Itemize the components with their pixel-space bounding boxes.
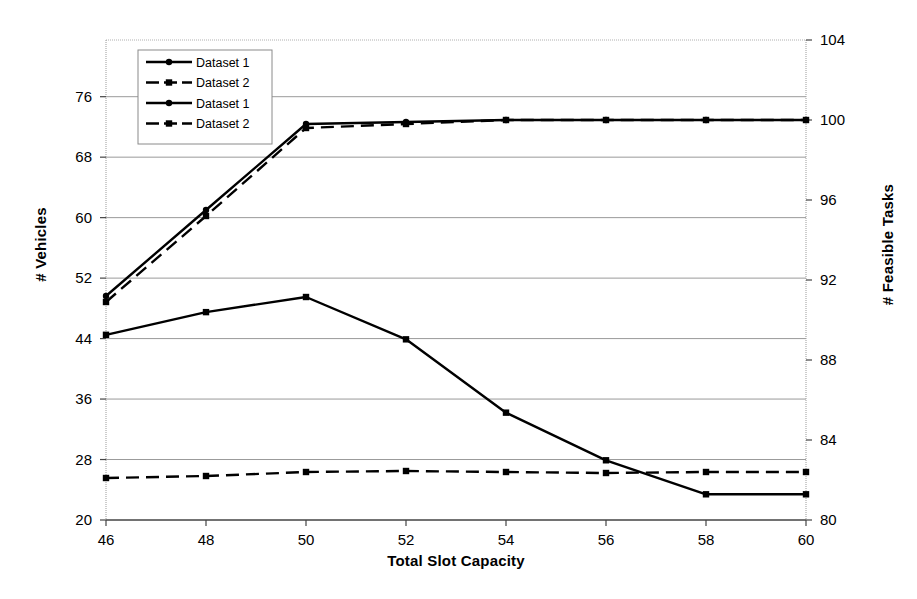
- legend-marker-0: [166, 59, 172, 65]
- chart-container: # Vehicles # Feasible Tasks Total Slot C…: [0, 0, 917, 599]
- series-marker-2: [303, 294, 309, 300]
- data-series: [103, 117, 809, 498]
- legend-marker-2: [166, 100, 172, 106]
- series-marker-3: [503, 469, 509, 475]
- series-line-0: [106, 120, 806, 296]
- series-marker-2: [103, 332, 109, 338]
- chart-legend: Dataset 1Dataset 2Dataset 1Dataset 2: [138, 50, 272, 144]
- series-marker-1: [203, 213, 209, 219]
- series-marker-2: [803, 491, 809, 497]
- series-marker-2: [503, 409, 509, 415]
- series-marker-0: [203, 207, 209, 213]
- series-marker-3: [403, 468, 409, 474]
- series-marker-3: [203, 473, 209, 479]
- series-marker-3: [103, 475, 109, 481]
- series-marker-3: [703, 469, 709, 475]
- series-line-2: [106, 297, 806, 494]
- series-marker-2: [603, 457, 609, 463]
- series-marker-1: [603, 117, 609, 123]
- legend-marker-3: [166, 120, 172, 126]
- legend-label-1: Dataset 2: [196, 76, 250, 90]
- series-marker-3: [603, 470, 609, 476]
- gridlines: [106, 97, 806, 520]
- legend-label-2: Dataset 1: [196, 97, 250, 111]
- series-marker-1: [303, 125, 309, 131]
- series-marker-2: [403, 336, 409, 342]
- series-marker-1: [703, 117, 709, 123]
- series-marker-0: [103, 293, 109, 299]
- series-line-3: [106, 471, 806, 478]
- series-marker-3: [303, 469, 309, 475]
- series-marker-1: [403, 121, 409, 127]
- plot-svg: Dataset 1Dataset 2Dataset 1Dataset 2: [0, 0, 917, 599]
- series-marker-1: [503, 117, 509, 123]
- series-marker-2: [703, 491, 709, 497]
- series-marker-2: [203, 309, 209, 315]
- legend-label-3: Dataset 2: [196, 117, 250, 131]
- legend-label-0: Dataset 1: [196, 56, 250, 70]
- series-marker-1: [103, 299, 109, 305]
- legend-marker-1: [166, 79, 172, 85]
- series-marker-1: [803, 117, 809, 123]
- series-line-1: [106, 120, 806, 302]
- series-marker-3: [803, 469, 809, 475]
